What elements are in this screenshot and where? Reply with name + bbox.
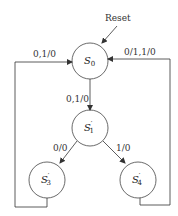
- label-s1-s4: 1/0: [116, 143, 131, 153]
- state-s4: S′4: [120, 162, 156, 198]
- reset-arrow: [102, 26, 117, 43]
- reset-label: Reset: [105, 13, 131, 23]
- label-s1-s3: 0/0: [53, 143, 68, 153]
- svg-text:S′1: S′1: [84, 120, 94, 135]
- label-s3-s0: 0,1/0: [33, 49, 56, 59]
- svg-text:S′3: S′3: [41, 172, 51, 187]
- label-s4-s0: 0/1,1/0: [124, 47, 156, 57]
- state-s0: S0: [72, 43, 108, 79]
- state-s1: S′1: [72, 110, 108, 146]
- state-s3: S′3: [29, 162, 65, 198]
- state-diagram: Reset S0 S′1 S′3 S′4 0,1/0 0/0 1/0 0,1/0…: [0, 0, 178, 216]
- label-s0-s1: 0,1/0: [66, 94, 89, 104]
